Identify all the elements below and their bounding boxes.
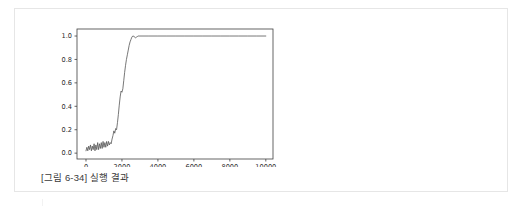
svg-text:0.4: 0.4	[62, 103, 73, 111]
svg-text:8000: 8000	[221, 163, 238, 167]
svg-text:1.0: 1.0	[62, 32, 73, 40]
svg-text:0: 0	[84, 163, 88, 167]
page-artifact	[42, 199, 43, 206]
svg-text:2000: 2000	[114, 163, 131, 167]
svg-text:0.2: 0.2	[62, 126, 73, 134]
axes-frame	[77, 29, 273, 159]
y-axis-tick-labels: 0.00.20.40.60.81.0	[62, 32, 73, 157]
x-axis-tick-labels: 0200040006000800010000	[84, 163, 276, 167]
svg-text:4000: 4000	[150, 163, 167, 167]
figure-card: 0200040006000800010000 0.00.20.40.60.81.…	[14, 8, 508, 192]
plot-area: 0200040006000800010000 0.00.20.40.60.81.…	[41, 15, 291, 167]
accuracy-line-chart: 0200040006000800010000 0.00.20.40.60.81.…	[41, 15, 291, 167]
svg-text:0.6: 0.6	[62, 79, 73, 87]
svg-text:0.8: 0.8	[62, 56, 73, 64]
accuracy-curve	[86, 36, 266, 151]
svg-text:6000: 6000	[185, 163, 202, 167]
figure-caption: [그림 6-34] 실행 결과	[41, 170, 129, 184]
svg-text:10000: 10000	[255, 163, 276, 167]
svg-text:0.0: 0.0	[62, 149, 73, 157]
